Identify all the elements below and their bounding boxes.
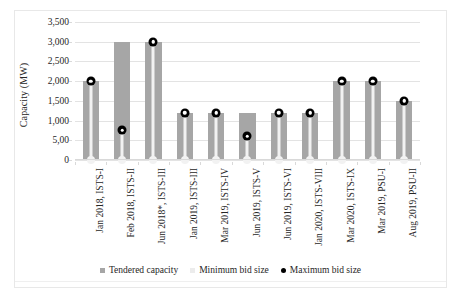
bar-group[interactable]	[365, 22, 381, 160]
marker-maximum-bid-size-center	[152, 40, 156, 44]
x-axis-tick-label: Jun 2019, ISTS-VI	[283, 168, 293, 240]
bar-group[interactable]	[83, 22, 99, 160]
marker-maximum-bid-size[interactable]	[86, 77, 95, 86]
marker-maximum-bid-size-center	[308, 111, 312, 115]
marker-maximum-bid-size[interactable]	[368, 77, 377, 86]
marker-maximum-bid-size[interactable]	[243, 132, 252, 141]
legend-item-label: Maximum bid size	[290, 265, 361, 275]
bar-group[interactable]	[396, 22, 412, 160]
marker-maximum-bid-size[interactable]	[274, 108, 283, 117]
legend-item[interactable]: Tendered capacity	[100, 265, 178, 275]
legend-item-label: Tendered capacity	[109, 265, 178, 275]
legend-item[interactable]: Minimum bid size	[190, 265, 269, 275]
y-axis-tick-mark	[69, 42, 72, 43]
x-axis-tick-label: Mar 2020, ISTS-IX	[346, 168, 356, 243]
bar-minimum-bid-size[interactable]	[277, 113, 280, 160]
x-axis-tick-label: Jun 2018*, ISTS-III	[157, 168, 167, 244]
x-axis-tick-label: Jan 2020, ISTS-VIII	[314, 168, 324, 246]
x-axis-tick-mark	[357, 162, 358, 165]
marker-maximum-bid-size-center	[403, 99, 407, 103]
bar-minimum-bid-size[interactable]	[403, 101, 406, 160]
plot-area	[75, 22, 420, 160]
marker-maximum-bid-size[interactable]	[180, 108, 189, 117]
x-axis-tick-mark	[420, 162, 421, 165]
y-axis-tick-label: 3,500	[48, 17, 69, 27]
bar-group[interactable]	[239, 22, 255, 160]
y-axis-tick-mark	[69, 101, 72, 102]
marker-maximum-bid-size-center	[214, 111, 218, 115]
y-axis-tick-mark	[69, 22, 72, 23]
x-axis-tick-mark	[106, 162, 107, 165]
x-axis-tick-label: Feb 2018, ISTS-II	[126, 168, 136, 237]
x-axis-tick-label: Aug 2019, PSU-II	[408, 168, 418, 237]
bar-series-layer	[75, 22, 420, 160]
bar-minimum-bid-size[interactable]	[309, 113, 312, 160]
bar-group[interactable]	[333, 22, 349, 160]
marker-maximum-bid-size-center	[340, 79, 344, 83]
y-axis-tick-mark	[69, 121, 72, 122]
x-axis-tick-mark	[326, 162, 327, 165]
y-axis-tick-mark	[69, 81, 72, 82]
x-axis-tick-labels: Jan 2018, ISTS-IFeb 2018, ISTS-IIJun 201…	[75, 162, 420, 254]
legend-square-icon	[100, 268, 105, 273]
y-axis-tick-label: 2,000	[48, 76, 69, 86]
bar-minimum-bid-size[interactable]	[340, 81, 343, 160]
x-axis-tick-label: Mar 2019, ISTS-IV	[220, 168, 230, 243]
y-axis-tick-label: 1,500	[48, 96, 69, 106]
y-axis-tick-mark	[69, 61, 72, 62]
bar-group[interactable]	[271, 22, 287, 160]
chart-container: Capacity (MW) 3,5003,0002,5002,0001,5001…	[0, 0, 461, 298]
marker-maximum-bid-size-center	[89, 79, 93, 83]
y-axis-tick-label: 1,000	[48, 116, 69, 126]
y-axis-tick-mark	[69, 140, 72, 141]
legend-divider	[15, 281, 446, 282]
y-axis-tick-mark	[69, 160, 72, 161]
marker-maximum-bid-size-center	[120, 129, 124, 133]
x-axis-tick-label: Jun 2019, ISTS-V	[252, 168, 262, 237]
chart-legend: Tendered capacityMinimum bid sizeMaximum…	[14, 262, 447, 278]
bar-group[interactable]	[114, 22, 130, 160]
marker-maximum-bid-size[interactable]	[118, 126, 127, 135]
x-axis-tick-mark	[200, 162, 201, 165]
marker-maximum-bid-size[interactable]	[400, 96, 409, 105]
marker-maximum-bid-size-center	[371, 79, 375, 83]
x-axis-tick-mark	[389, 162, 390, 165]
bar-minimum-bid-size[interactable]	[371, 81, 374, 160]
bar-group[interactable]	[208, 22, 224, 160]
x-axis-tick-label: Jan 2019, ISTS-III	[189, 168, 199, 239]
bar-minimum-bid-size[interactable]	[89, 81, 92, 160]
legend-dot-icon	[281, 268, 286, 273]
legend-item[interactable]: Maximum bid size	[281, 265, 361, 275]
x-axis-tick-mark	[75, 162, 76, 165]
marker-maximum-bid-size-center	[277, 111, 281, 115]
marker-maximum-bid-size[interactable]	[212, 108, 221, 117]
marker-maximum-bid-size[interactable]	[306, 108, 315, 117]
x-axis-tick-mark	[169, 162, 170, 165]
marker-maximum-bid-size[interactable]	[149, 37, 158, 46]
legend-item-label: Minimum bid size	[199, 265, 269, 275]
x-axis-tick-mark	[263, 162, 264, 165]
x-axis-line	[75, 159, 420, 160]
bar-group[interactable]	[145, 22, 161, 160]
marker-maximum-bid-size[interactable]	[337, 77, 346, 86]
y-axis-tick-label: 3,000	[48, 37, 69, 47]
bar-minimum-bid-size[interactable]	[215, 113, 218, 160]
x-axis-tick-mark	[232, 162, 233, 165]
marker-maximum-bid-size-center	[246, 135, 250, 139]
bar-minimum-bid-size[interactable]	[152, 42, 155, 160]
bar-group[interactable]	[177, 22, 193, 160]
legend-square-icon	[190, 268, 195, 273]
x-axis-tick-mark	[138, 162, 139, 165]
x-axis-tick-label: Mar 2019, PSU-I	[377, 168, 387, 234]
bar-minimum-bid-size[interactable]	[183, 113, 186, 160]
y-axis-tick-label: 2,500	[48, 56, 69, 66]
y-axis-tick-label: 5,00	[52, 135, 69, 145]
x-axis-tick-mark	[295, 162, 296, 165]
x-axis-tick-label: Jan 2018, ISTS-I	[95, 168, 105, 233]
bar-group[interactable]	[302, 22, 318, 160]
y-axis-tick-labels: 3,5003,0002,5002,0001,5001,0005,000	[30, 22, 72, 160]
marker-maximum-bid-size-center	[183, 111, 187, 115]
